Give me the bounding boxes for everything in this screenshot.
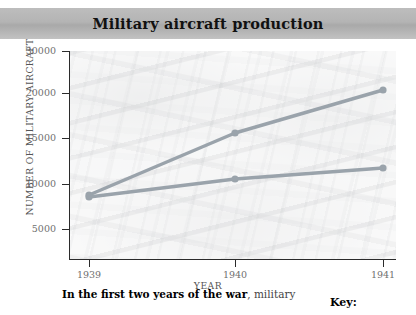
series-2-point-1940 (231, 175, 238, 182)
series-2-line (89, 168, 383, 197)
chart-container: 30000 20000 15000 10000 5000 1939 1940 1… (0, 39, 416, 283)
page-title: Military aircraft production (92, 15, 323, 32)
caption-text: In the first two years of the war, milit… (62, 287, 312, 301)
key-label: Key: (330, 296, 357, 309)
series-1-point-1940 (231, 129, 238, 136)
series-2-point-1939 (85, 193, 92, 200)
data-series-layer (0, 39, 416, 283)
title-banner: Military aircraft production (0, 8, 416, 39)
caption-bold: In the first two years of the war (62, 288, 247, 300)
series-2-point-1941 (379, 164, 386, 171)
caption-rest: , military (247, 288, 295, 300)
series-1-point-1941 (379, 86, 386, 93)
chart-page: Military aircraft production 30000 20000… (0, 0, 416, 315)
